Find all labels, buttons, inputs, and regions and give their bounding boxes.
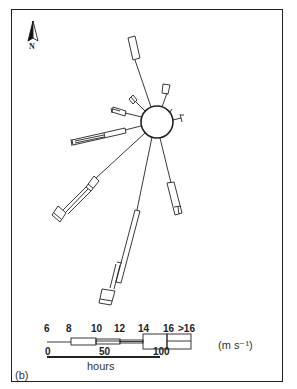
- spoke-ssw: [99, 137, 152, 305]
- north-arrow-icon: [28, 21, 38, 41]
- spoke-sw: [52, 133, 145, 222]
- spoke-wnw: [111, 107, 142, 117]
- spoke-nw: [129, 95, 145, 111]
- hours-tick-50: 50: [99, 346, 110, 357]
- speed-tick-14: 14: [138, 323, 149, 334]
- spoke-w: [71, 126, 141, 146]
- speed-tick-10: 10: [91, 323, 102, 334]
- panel-label: (b): [15, 369, 28, 381]
- speed-tick-8: 8: [66, 323, 72, 334]
- speed-tick-12: 12: [114, 323, 125, 334]
- spoke-e: [173, 114, 184, 122]
- hours-tick-100: 100: [153, 346, 170, 357]
- calm-circle: [141, 106, 173, 138]
- spoke-sse: [160, 138, 182, 215]
- speed-tick-16: 16: [163, 323, 174, 334]
- spoke-nne: [162, 84, 170, 107]
- hours-tick-0: 0: [45, 346, 51, 357]
- spoke-ene: [170, 109, 172, 112]
- north-label: N: [29, 42, 35, 51]
- units-label: (m s⁻¹): [218, 339, 253, 352]
- hours-label: hours: [87, 360, 115, 372]
- speed-tick-gt16: >16: [178, 323, 195, 334]
- speed-tick-6: 6: [44, 323, 50, 334]
